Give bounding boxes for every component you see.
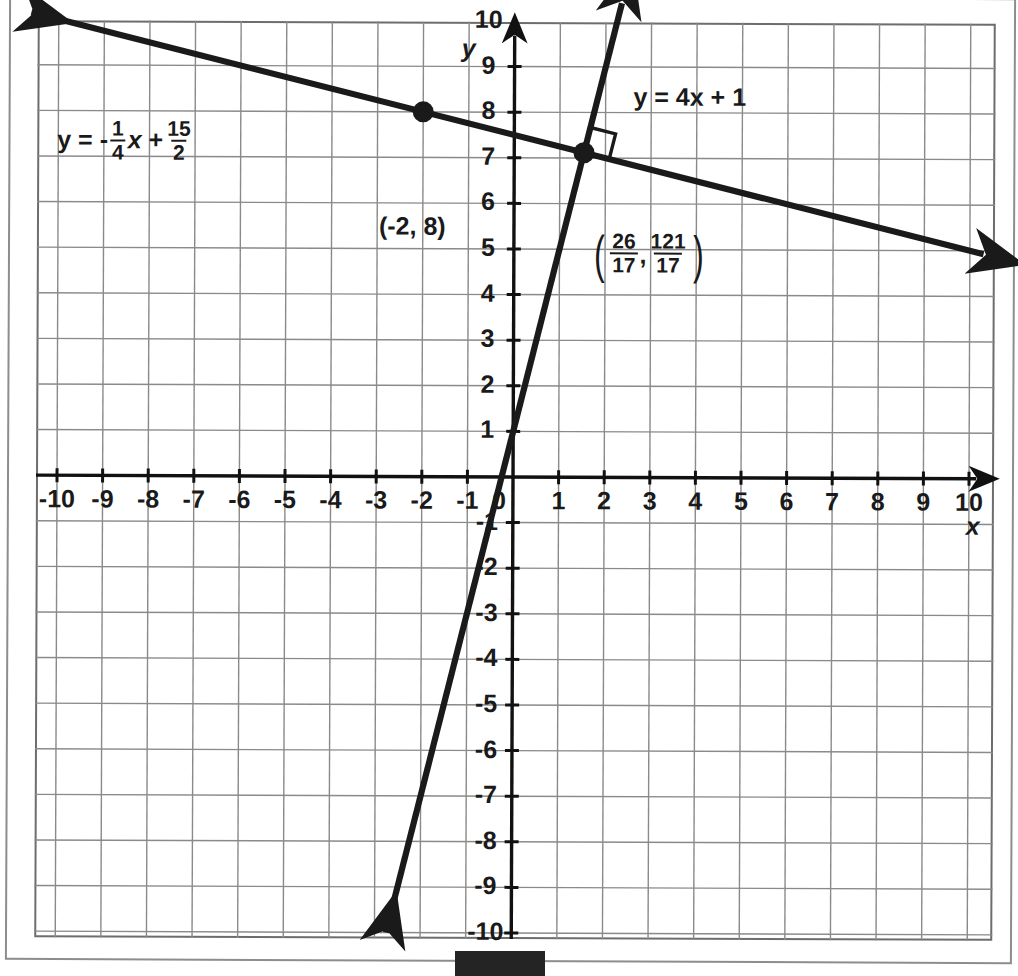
x-tick-2: 2: [582, 488, 626, 513]
x-tick--10: -10: [35, 486, 79, 511]
x-tick--3: -3: [354, 487, 398, 512]
x-tick-1: 1: [536, 488, 580, 513]
x-tick-4: 4: [673, 489, 717, 514]
coordinate-plane-graph: y x y = -14x +152 y = 4x + 1 (-2, 8) (26…: [34, 20, 996, 941]
x-tick-9: 9: [901, 489, 945, 514]
eqn-variable: x: [128, 125, 142, 153]
y-tick-3: 3: [465, 326, 509, 351]
y-tick--7: -7: [463, 782, 509, 807]
y-tick--10: -10: [462, 919, 508, 944]
x-tick--2: -2: [400, 488, 444, 513]
x-tick--7: -7: [172, 487, 216, 512]
fraction-one-fourth: 14: [110, 117, 126, 163]
point-label-minus2-8: (-2, 8): [379, 213, 446, 238]
fraction-26-17: 2617: [610, 230, 638, 276]
x-tick-6: 6: [764, 489, 808, 514]
y-tick--4: -4: [463, 645, 509, 670]
equation-label-shallow-line: y = -14x +152: [57, 118, 194, 165]
right-paren: ): [693, 235, 704, 274]
x-axis-label: x: [966, 514, 980, 539]
eqn-prefix: y = -: [57, 125, 108, 153]
y-tick-8: 8: [466, 98, 510, 123]
y-tick--8: -8: [463, 828, 509, 853]
fraction-fifteen-halves: 152: [165, 118, 193, 164]
x-tick--5: -5: [263, 487, 307, 512]
y-tick-1: 1: [465, 417, 509, 442]
y-tick-5: 5: [466, 235, 510, 260]
y-tick--2: -2: [464, 554, 510, 579]
y-tick--3: -3: [463, 600, 509, 625]
comma: ,: [640, 242, 647, 267]
y-tick-7: 7: [466, 144, 510, 169]
x-tick-5: 5: [719, 489, 763, 514]
y-tick--5: -5: [463, 691, 509, 716]
plot-point-0: [413, 101, 434, 122]
x-tick--9: -9: [80, 486, 124, 511]
left-paren: (: [594, 235, 605, 274]
point-label-intersection: (2617,12117): [591, 231, 707, 278]
y-tick--6: -6: [463, 736, 509, 761]
x-tick--6: -6: [217, 487, 261, 512]
y-tick--1: -1: [464, 508, 510, 533]
y-tick-10: 10: [467, 7, 511, 32]
x-tick--8: -8: [126, 487, 170, 512]
y-tick-4: 4: [466, 280, 510, 305]
y-tick-6: 6: [466, 189, 510, 214]
x-tick-3: 3: [628, 488, 672, 513]
x-tick-7: 7: [810, 489, 854, 514]
y-tick--9: -9: [462, 873, 508, 898]
y-tick-2: 2: [465, 372, 509, 397]
x-tick-10: 10: [947, 490, 991, 515]
equation-label-steep-line: y = 4x + 1: [633, 84, 746, 109]
page-bottom-tab: [455, 951, 545, 976]
plot-point-1: [573, 142, 594, 163]
x-tick-8: 8: [856, 489, 900, 514]
eqn-plus: +: [149, 125, 164, 153]
y-tick-9: 9: [467, 52, 511, 77]
fraction-121-17: 12117: [648, 231, 687, 277]
x-tick--4: -4: [308, 487, 352, 512]
